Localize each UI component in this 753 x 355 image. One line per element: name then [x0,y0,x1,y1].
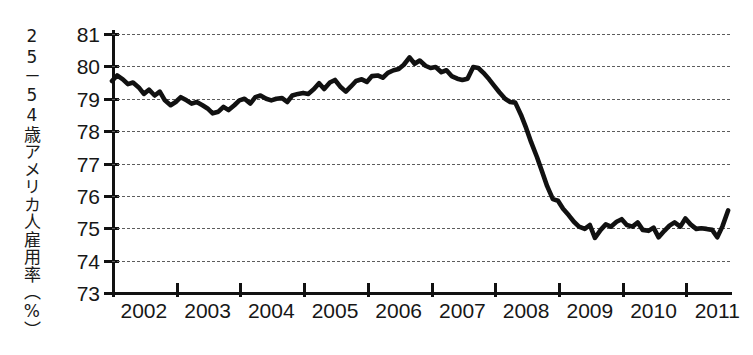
y-axis-tick-label: 80 [77,56,100,77]
x-axis-tick-mark [431,283,434,297]
x-axis-tick-marks [0,283,753,297]
y-axis-tick-label: 75 [77,218,100,239]
x-axis-tick-mark [685,283,688,297]
x-axis-tick-label: 2008 [503,300,550,321]
x-axis-tick-label: 2005 [312,300,359,321]
x-axis-tick-mark [622,283,625,297]
x-axis-tick-label: 2006 [375,300,422,321]
x-axis-tick-mark [494,283,497,297]
x-axis-tick-mark [558,283,561,297]
series-line-chart [112,34,730,293]
y-axis-label: 25－54歳アメリカ人雇用率（%） [14,26,48,301]
x-axis-tick-label: 2011 [695,300,740,321]
x-axis-tick-mark [239,283,242,297]
plot-area [112,34,730,293]
x-axis-tick-mark [303,283,306,297]
chart-figure: 25－54歳アメリカ人雇用率（%） 737475767778798081 200… [0,0,753,355]
y-axis-tick-label: 81 [77,24,100,45]
x-axis-tick-mark [112,283,115,297]
x-axis-tick-label: 2009 [566,300,613,321]
x-axis-tick-mark [367,283,370,297]
x-axis-tick-labels: 2002200320042005200620072008200920102011 [0,300,753,334]
x-axis-tick-label: 2002 [120,300,167,321]
y-axis-tick-label: 77 [77,153,100,174]
y-axis-tick-label: 74 [77,250,100,271]
x-axis-tick-mark [176,283,179,297]
employment-rate-line [112,57,728,238]
y-axis-tick-label: 79 [77,88,100,109]
y-axis-tick-label: 78 [77,121,100,142]
x-axis-tick-label: 2007 [439,300,486,321]
x-axis-tick-label: 2010 [630,300,677,321]
y-axis-tick-label: 76 [77,185,100,206]
x-axis-tick-label: 2004 [248,300,295,321]
x-axis-tick-label: 2003 [184,300,231,321]
